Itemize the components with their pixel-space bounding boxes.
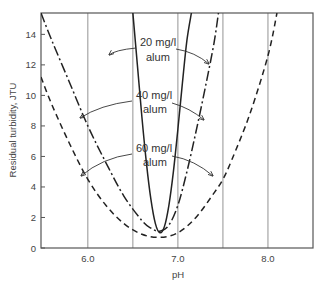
svg-text:alum: alum [143, 103, 167, 115]
y-tick-label: 4 [31, 181, 36, 192]
y-tick-label: 10 [25, 90, 36, 101]
svg-text:alum: alum [143, 156, 167, 168]
chart: 02468101214 6.07.08.0 pH Residual turbid… [0, 0, 323, 288]
y-tick-label: 12 [25, 59, 36, 70]
y-tick-label: 8 [31, 120, 36, 131]
y-axis-label: Residual turbidity, JTU [7, 82, 18, 177]
x-axis-label: pH [172, 269, 184, 280]
y-tick-label: 2 [31, 212, 36, 223]
svg-text:40 mg/l: 40 mg/l [136, 89, 172, 101]
arrow-icon [109, 48, 136, 55]
arrow-icon [176, 49, 209, 64]
annotation-20mg: 20 mg/l alum [109, 36, 209, 64]
svg-text:20 mg/l: 20 mg/l [140, 36, 176, 48]
y-tick-label: 6 [31, 151, 36, 162]
x-tick-label: 8.0 [261, 253, 274, 264]
x-tick-label: 7.0 [171, 253, 184, 264]
y-axis-ticks: 02468101214 [25, 29, 45, 254]
x-tick-label: 6.0 [81, 253, 94, 264]
svg-text:60 mg/l: 60 mg/l [136, 142, 172, 154]
y-tick-label: 0 [31, 243, 36, 254]
series-line [41, 13, 218, 231]
x-axis-ticks: 6.07.08.0 [81, 253, 274, 264]
svg-text:alum: alum [146, 51, 170, 63]
arrow-icon [172, 103, 204, 120]
y-tick-label: 14 [25, 29, 36, 40]
